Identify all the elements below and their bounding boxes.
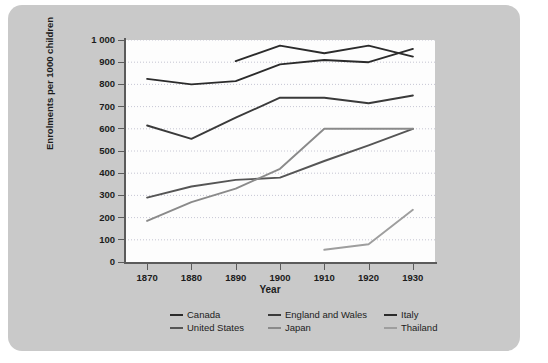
x-axis-tick-label: 1910 [304, 272, 344, 283]
y-axis-tick-label: 800 [71, 78, 115, 89]
y-axis-tick [118, 62, 125, 63]
legend-line-icon [170, 314, 183, 316]
legend-item[interactable]: Canada [170, 308, 268, 321]
legend-item-label: United States [187, 322, 244, 333]
legend-item-label: Italy [401, 309, 418, 320]
y-axis-tick-label: 600 [71, 123, 115, 134]
x-axis-tick-label: 1920 [349, 272, 389, 283]
y-axis-tick-label: 500 [71, 145, 115, 156]
chart-legend: CanadaEngland and WalesItalyUnited State… [170, 308, 455, 334]
y-axis-tick [118, 217, 125, 218]
legend-line-icon [268, 327, 281, 329]
y-axis-tick [118, 239, 125, 240]
legend-item-label: Canada [187, 309, 220, 320]
legend-item-label: Japan [285, 322, 311, 333]
x-axis-title: Year [105, 284, 435, 295]
y-axis-tick [118, 173, 125, 174]
x-axis-tick [413, 264, 414, 270]
y-axis-tick-label: 200 [71, 212, 115, 223]
legend-line-icon [268, 314, 281, 316]
y-axis-title: Enrolments per 1000 children [44, 17, 55, 150]
x-axis-tick [369, 264, 370, 270]
legend-item-label: Thailand [401, 322, 437, 333]
legend-item[interactable]: England and Wales [268, 308, 384, 321]
y-axis-tick [118, 128, 125, 129]
y-axis-tick-label: 300 [71, 189, 115, 200]
x-axis-tick-label: 1890 [216, 272, 256, 283]
y-axis-tick [118, 262, 125, 263]
legend-line-icon [170, 327, 183, 329]
y-axis-tick [118, 151, 125, 152]
y-axis-tick [118, 195, 125, 196]
x-axis-tick-label: 1880 [171, 272, 211, 283]
legend-item-label: England and Wales [285, 309, 367, 320]
legend-line-icon [384, 314, 397, 316]
chart-plot-wrapper: 01002003004005006007008009001 000 187018… [105, 33, 435, 268]
x-axis-tick-label: 1930 [393, 272, 433, 283]
y-axis-tick [118, 84, 125, 85]
legend-item[interactable]: Italy [384, 308, 455, 321]
y-axis-tick-label: 100 [71, 234, 115, 245]
x-axis-tick [280, 264, 281, 270]
chart-plot-area [125, 40, 435, 262]
x-axis-tick-label: 1870 [127, 272, 167, 283]
legend-item[interactable]: Japan [268, 321, 384, 334]
legend-line-icon [384, 327, 397, 329]
x-axis-tick [147, 264, 148, 270]
chart-series-lines [125, 40, 435, 262]
x-axis-tick [191, 264, 192, 270]
legend-item[interactable]: Thailand [384, 321, 455, 334]
y-axis-tick-label: 900 [71, 56, 115, 67]
y-axis-tick-label: 1 000 [71, 34, 115, 45]
y-axis-tick [118, 106, 125, 107]
y-axis-tick [118, 40, 125, 41]
y-axis-tick-label: 400 [71, 167, 115, 178]
y-axis-tick-label: 0 [71, 256, 115, 267]
x-axis-tick [236, 264, 237, 270]
x-axis-tick-label: 1900 [260, 272, 300, 283]
x-axis-tick [324, 264, 325, 270]
y-axis-tick-label: 700 [71, 101, 115, 112]
legend-item[interactable]: United States [170, 321, 268, 334]
